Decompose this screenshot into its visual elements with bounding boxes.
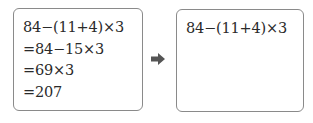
right-arrow-icon — [150, 52, 166, 66]
expression-line-3: =69×3 — [23, 60, 142, 82]
expression-line-1: 84−(11+4)×3 — [23, 17, 142, 39]
expression-line-2: =84−15×3 — [23, 39, 142, 61]
worked-solution-box: 84−(11+4)×3 =84−15×3 =69×3 =207 — [13, 8, 143, 111]
answer-expression: 84−(11+4)×3 — [186, 18, 303, 40]
expression-line-4: =207 — [23, 82, 142, 104]
answer-box[interactable]: 84−(11+4)×3 — [176, 9, 304, 112]
